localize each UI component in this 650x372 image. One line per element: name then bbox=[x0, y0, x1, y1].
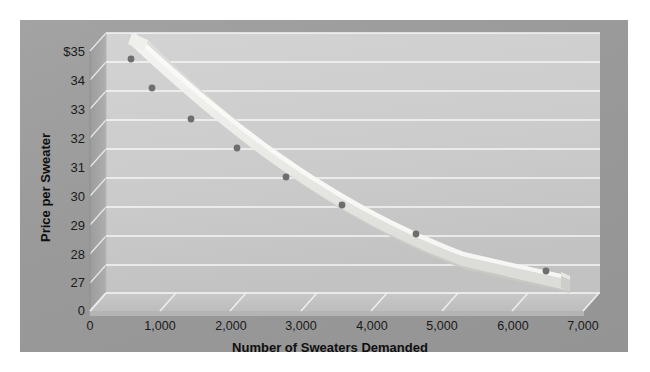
data-point bbox=[283, 174, 290, 181]
y-tick-label: 0 bbox=[40, 303, 85, 318]
y-tick-label: 28 bbox=[40, 247, 85, 262]
y-tick-label: 33 bbox=[40, 102, 85, 117]
y-axis-wall bbox=[90, 33, 106, 311]
x-tick-label: 5,000 bbox=[422, 319, 462, 333]
data-point bbox=[339, 202, 346, 209]
demand-curve-chart bbox=[0, 0, 650, 372]
x-tick-label: 6,000 bbox=[493, 319, 533, 333]
data-point bbox=[128, 56, 135, 63]
x-tick-label: 3,000 bbox=[281, 319, 321, 333]
x-tick-label: 7,000 bbox=[563, 319, 603, 333]
y-tick-label: $35 bbox=[40, 44, 85, 59]
y-axis-title: Price per Sweater bbox=[38, 133, 53, 242]
data-point bbox=[413, 231, 420, 238]
y-tick-label: 27 bbox=[40, 275, 85, 290]
x-tick-label: 2,000 bbox=[211, 319, 251, 333]
x-axis-title: Number of Sweaters Demanded bbox=[150, 340, 510, 355]
y-tick-label: 34 bbox=[40, 73, 85, 88]
x-tick-label: 0 bbox=[70, 319, 110, 333]
data-point bbox=[188, 116, 195, 123]
data-point bbox=[543, 268, 550, 275]
data-point bbox=[149, 85, 156, 92]
x-tick-label: 1,000 bbox=[140, 319, 180, 333]
chart-screenshot: $35 34 33 32 31 30 29 28 27 0 Price per … bbox=[0, 0, 650, 372]
data-point bbox=[234, 145, 241, 152]
x-tick-label: 4,000 bbox=[352, 319, 392, 333]
